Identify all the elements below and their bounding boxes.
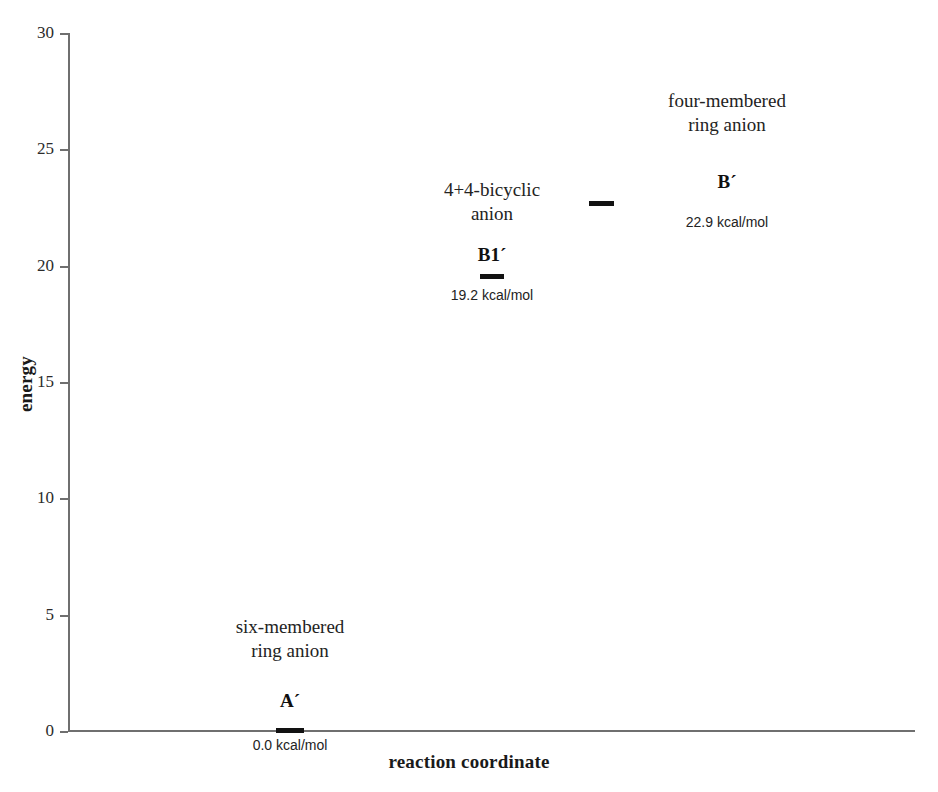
y-tick-mark (60, 615, 68, 617)
y-tick-label: 30 (14, 24, 54, 41)
y-tick-label: 20 (14, 257, 54, 274)
y-axis-title: energy (15, 339, 37, 429)
energy-diagram-figure: 051015202530 energy reaction coordinate … (0, 0, 938, 792)
x-axis-line (68, 730, 915, 732)
state-b1-level-bar (480, 274, 504, 279)
y-tick-label: 25 (14, 140, 54, 157)
state-a-name-line2: ring anion (170, 639, 410, 663)
x-axis-title: reaction coordinate (0, 751, 938, 773)
state-b-level-bar (589, 201, 614, 206)
state-b1-symbol: B1´ (372, 245, 612, 264)
y-tick-mark (60, 33, 68, 35)
y-tick-label: 0 (14, 722, 54, 739)
y-tick-mark (60, 731, 68, 733)
state-b-name-line1: four-membered (607, 89, 847, 113)
state-a-value-label: 0.0 kcal/mol (170, 738, 410, 752)
state-b1-value-label: 19.2 kcal/mol (372, 288, 612, 302)
y-tick-mark (60, 149, 68, 151)
state-a-level-bar (276, 728, 304, 733)
state-a-symbol: A´ (170, 691, 410, 710)
y-tick-mark (60, 266, 68, 268)
y-axis-line (68, 33, 70, 732)
state-b-symbol: B´ (607, 172, 847, 191)
y-tick-label: 10 (14, 489, 54, 506)
state-b-value-label: 22.9 kcal/mol (607, 215, 847, 229)
state-b1-name-line2: anion (372, 202, 612, 226)
state-b1-name-line1: 4+4-bicyclic (372, 178, 612, 202)
y-tick-mark (60, 498, 68, 500)
y-tick-label: 5 (14, 606, 54, 623)
y-tick-mark (60, 382, 68, 384)
state-a-name-line1: six-membered (170, 615, 410, 639)
state-b-name-line2: ring anion (607, 113, 847, 137)
